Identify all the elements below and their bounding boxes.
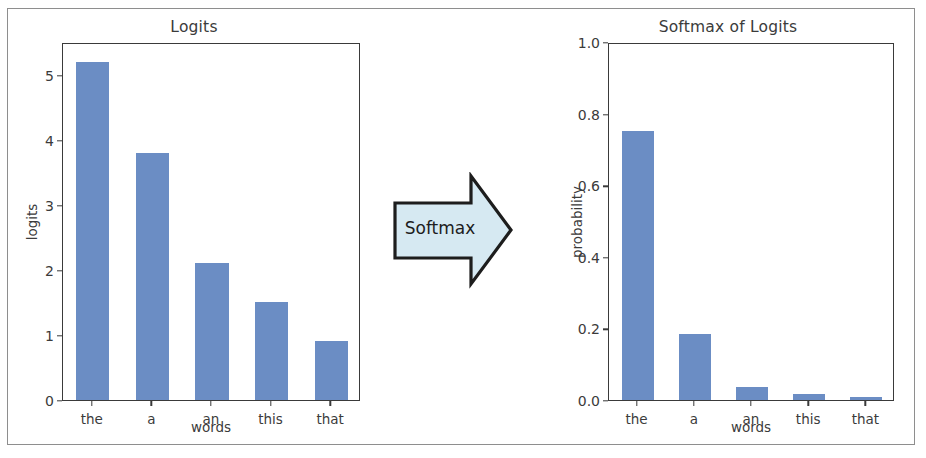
chart-title-logits: Logits (14, 18, 374, 36)
y-tick-mark (57, 75, 62, 76)
x-tick-mark (807, 401, 808, 406)
y-axis-title-logits: logits (24, 182, 40, 262)
bar-series-softmax (609, 44, 893, 400)
y-axis-title-softmax: probability (569, 177, 585, 267)
x-tick-mark (91, 401, 92, 406)
bar-that (850, 397, 882, 400)
x-tick-mark (865, 401, 866, 406)
bar-that (315, 341, 348, 400)
y-tick-label: 1 (8, 328, 54, 344)
y-tick-mark (603, 257, 608, 258)
x-tick-mark (693, 401, 694, 406)
bar-an (736, 387, 768, 400)
y-tick-label: 5 (8, 68, 54, 84)
bar-series-logits (63, 44, 359, 400)
x-tick-mark (210, 401, 211, 406)
y-tick-mark (603, 400, 608, 401)
chart-panel-softmax: Softmax of Logits 0.00.20.40.60.81.0 the… (548, 14, 908, 444)
softmax-arrow: Softmax (392, 172, 514, 290)
y-tick-label: 0.0 (554, 393, 600, 409)
bar-a (679, 334, 711, 400)
x-tick-mark (750, 401, 751, 406)
figure-canvas: Logits 012345 theaanthisthat words logit… (0, 0, 926, 458)
y-tick-mark (57, 270, 62, 271)
bar-the (622, 131, 654, 400)
bar-this (255, 302, 288, 400)
y-tick-mark (57, 205, 62, 206)
y-tick-label: 0.2 (554, 321, 600, 337)
x-tick-mark (636, 401, 637, 406)
chart-panel-logits: Logits 012345 theaanthisthat words logit… (14, 14, 374, 444)
x-tick-mark (270, 401, 271, 406)
plot-area-logits (62, 43, 360, 401)
bar-this (793, 394, 825, 400)
y-tick-label: 2 (8, 263, 54, 279)
chart-title-softmax: Softmax of Logits (548, 18, 908, 36)
softmax-arrow-label: Softmax (392, 218, 488, 238)
bar-an (195, 263, 228, 400)
y-tick-mark (57, 335, 62, 336)
y-tick-mark (57, 400, 62, 401)
y-tick-mark (57, 140, 62, 141)
plot-area-softmax (608, 43, 894, 401)
y-tick-label: 0 (8, 393, 54, 409)
y-tick-mark (603, 185, 608, 186)
bar-the (76, 62, 109, 400)
x-axis-title-softmax: words (608, 419, 894, 435)
y-tick-mark (603, 329, 608, 330)
y-tick-label: 1.0 (554, 35, 600, 51)
x-axis-title-logits: words (62, 419, 360, 435)
x-tick-mark (329, 401, 330, 406)
bar-a (136, 153, 169, 400)
y-tick-label: 0.8 (554, 107, 600, 123)
y-tick-mark (603, 42, 608, 43)
y-tick-mark (603, 114, 608, 115)
x-tick-mark (151, 401, 152, 406)
y-tick-label: 4 (8, 133, 54, 149)
